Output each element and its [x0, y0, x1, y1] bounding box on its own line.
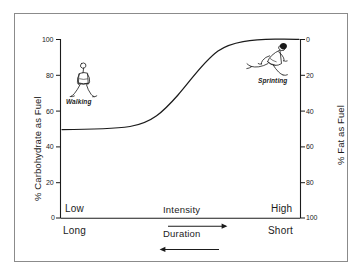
sprinting-annotation-label: Sprinting: [258, 78, 287, 85]
right-tick-label-0: 0: [306, 36, 310, 43]
intensity-label: Intensity: [163, 205, 200, 215]
left-axis-title: % Carbohydrate as Fuel: [33, 96, 43, 201]
x-axis-low-label: Low: [65, 204, 84, 214]
x-axis-short-label: Short: [268, 226, 293, 236]
right-tick-label-60: 60: [306, 143, 313, 150]
figure-page: 100 80 60 40 20 0 0 20 40 60 80 100 % Ca…: [0, 0, 362, 277]
right-tick-label-80: 80: [306, 179, 313, 186]
right-tick-label-100: 100: [306, 214, 317, 221]
right-axis-title: % Fat as Fuel: [336, 105, 346, 165]
left-tick-label-100: 100: [42, 36, 53, 43]
left-tick-label-0: 0: [51, 214, 55, 221]
left-tick-label-40: 40: [46, 143, 53, 150]
walking-annotation-label: Walking: [66, 99, 92, 106]
figure-caption: [16, 266, 356, 277]
right-tick-label-20: 20: [306, 72, 313, 79]
duration-label: Duration: [163, 229, 201, 239]
left-tick-label-20: 20: [46, 179, 53, 186]
left-tick-label-80: 80: [46, 72, 53, 79]
right-tick-label-40: 40: [306, 108, 313, 115]
x-axis-long-label: Long: [63, 226, 86, 236]
x-axis-high-label: High: [271, 204, 292, 214]
left-tick-label-60: 60: [46, 108, 53, 115]
